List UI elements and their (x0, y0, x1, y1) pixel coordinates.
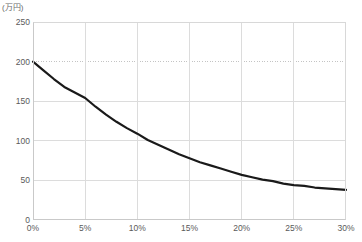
x-axis-tick: 5% (79, 223, 91, 233)
y-axis-tick: 200 (16, 57, 30, 67)
plot-area (33, 22, 346, 220)
y-axis-tick: 150 (16, 96, 30, 106)
x-axis-tick: 20% (233, 223, 250, 233)
y-axis-tick-labels: 250200150100500 (0, 22, 30, 220)
data-line-series (33, 22, 346, 220)
x-axis-tick: 15% (181, 223, 198, 233)
x-axis-tick-labels: 0%5%10%15%20%25%30% (33, 223, 346, 239)
x-axis-tick: 0% (27, 223, 39, 233)
x-axis-tick: 25% (285, 223, 302, 233)
y-axis-tick: 100 (16, 136, 30, 146)
x-axis-tick: 30% (337, 223, 354, 233)
x-axis-tick: 10% (129, 223, 146, 233)
y-axis-unit-label: (万円) (2, 1, 23, 12)
y-axis-tick: 250 (16, 17, 30, 27)
chart-container: (万円) 250200150100500 0%5%10%15%20%25%30% (0, 0, 362, 242)
y-axis-tick: 50 (21, 175, 30, 185)
